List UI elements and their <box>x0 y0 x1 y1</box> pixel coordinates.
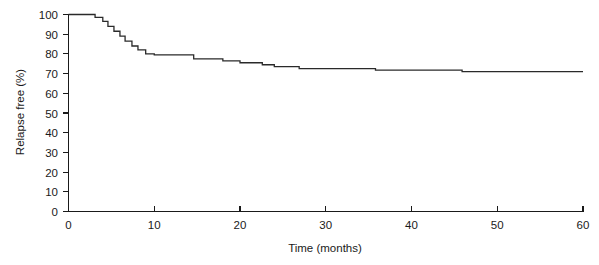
y-tick-label-40: 40 <box>45 127 58 139</box>
relapse-free-survival-figure: 100 90 80 70 60 50 40 30 20 10 0 0 10 20… <box>0 0 599 265</box>
y-tick-label-100: 100 <box>39 9 58 21</box>
x-axis-ticks <box>69 206 584 212</box>
y-tick-label-0: 0 <box>52 206 58 218</box>
x-tick-label-30: 30 <box>319 219 332 231</box>
kaplan-meier-curve <box>69 15 584 72</box>
y-tick-label-60: 60 <box>45 88 58 100</box>
km-plot-svg: 100 90 80 70 60 50 40 30 20 10 0 0 10 20… <box>0 0 599 265</box>
y-tick-label-80: 80 <box>45 48 58 60</box>
y-tick-label-90: 90 <box>45 29 58 41</box>
y-tick-label-30: 30 <box>45 147 58 159</box>
x-tick-label-20: 20 <box>234 219 247 231</box>
x-tick-label-10: 10 <box>148 219 161 231</box>
x-tick-label-0: 0 <box>65 219 71 231</box>
x-axis-title: Time (months) <box>288 242 362 254</box>
x-tick-label-50: 50 <box>491 219 504 231</box>
y-tick-label-50: 50 <box>45 108 58 120</box>
y-axis-ticks <box>63 15 69 212</box>
y-tick-label-70: 70 <box>45 68 58 80</box>
x-tick-label-60: 60 <box>577 219 590 231</box>
y-axis-title: Relapse free (%) <box>14 69 26 155</box>
y-tick-label-20: 20 <box>45 167 58 179</box>
x-tick-label-40: 40 <box>405 219 418 231</box>
y-tick-label-10: 10 <box>45 186 58 198</box>
